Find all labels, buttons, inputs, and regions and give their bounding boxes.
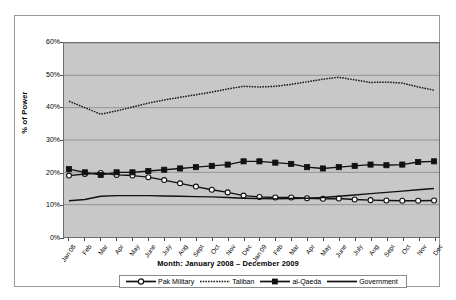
series-marker bbox=[146, 175, 151, 180]
y-tick-label: 0% bbox=[30, 234, 60, 242]
x-tick-mark bbox=[244, 238, 245, 241]
legend-swatch-none-icon bbox=[200, 277, 230, 286]
series-marker bbox=[82, 170, 87, 175]
plot-svg bbox=[64, 43, 439, 237]
legend-entry[interactable]: al-Qaeda bbox=[260, 277, 323, 286]
x-tick-mark bbox=[291, 238, 292, 241]
x-tick-mark bbox=[307, 238, 308, 241]
x-tick-mark bbox=[84, 238, 85, 241]
legend-label: Pak Military bbox=[158, 278, 196, 285]
x-tick-label: Nov bbox=[224, 243, 236, 256]
legend-label: Government bbox=[359, 278, 400, 285]
series-marker bbox=[273, 160, 278, 165]
x-tick-label: Dec bbox=[240, 243, 252, 256]
x-tick-mark bbox=[132, 238, 133, 241]
series-marker bbox=[162, 167, 167, 172]
series-line bbox=[69, 77, 434, 114]
x-tick-label: Dec bbox=[431, 243, 443, 256]
series-marker bbox=[257, 159, 262, 164]
x-tick-mark bbox=[339, 238, 340, 241]
y-tick-label: 10% bbox=[30, 201, 60, 209]
series-marker bbox=[384, 198, 389, 203]
x-tick-mark bbox=[228, 238, 229, 241]
series-line bbox=[69, 189, 434, 201]
x-axis-title: Month: January 2008 – December 2009 bbox=[15, 259, 441, 268]
x-tick-mark bbox=[100, 238, 101, 241]
x-tick-mark bbox=[259, 238, 260, 241]
x-tick-label: Apr bbox=[113, 243, 125, 255]
series-marker bbox=[241, 193, 246, 198]
x-tick-mark bbox=[403, 238, 404, 241]
x-tick-label: Feb bbox=[81, 243, 93, 256]
series-marker bbox=[66, 173, 71, 178]
series-marker bbox=[289, 195, 294, 200]
x-tick-mark bbox=[68, 238, 69, 241]
x-tick-mark bbox=[387, 238, 388, 241]
y-tick-label: 30% bbox=[30, 136, 60, 144]
x-tick-label: Oct bbox=[400, 243, 412, 255]
y-tick-label: 20% bbox=[30, 169, 60, 177]
x-tick-label: Sept bbox=[191, 243, 204, 258]
y-tick-label: 50% bbox=[30, 71, 60, 79]
legend-entry[interactable]: Government bbox=[327, 277, 400, 286]
series-marker bbox=[225, 162, 230, 167]
x-tick-label: May bbox=[128, 243, 141, 257]
series-marker bbox=[400, 198, 405, 203]
series-marker bbox=[304, 165, 309, 170]
series-marker bbox=[114, 170, 119, 175]
series-marker bbox=[416, 159, 421, 164]
x-tick-mark bbox=[355, 238, 356, 241]
x-tick-label: Mar bbox=[96, 243, 108, 256]
series-marker bbox=[209, 163, 214, 168]
y-tick-label: 60% bbox=[30, 38, 60, 46]
legend-entry[interactable]: Pak Military bbox=[126, 277, 196, 286]
series-marker bbox=[130, 170, 135, 175]
series-marker bbox=[289, 161, 294, 166]
x-tick-label: Aug bbox=[176, 243, 188, 256]
x-tick-label: July bbox=[352, 243, 364, 256]
series-marker bbox=[431, 159, 436, 164]
x-tick-label: July bbox=[160, 243, 172, 256]
series-marker bbox=[225, 190, 230, 195]
series-marker bbox=[352, 163, 357, 168]
legend-label: Taliban bbox=[232, 278, 256, 285]
series-marker bbox=[432, 198, 437, 203]
x-tick-label: May bbox=[319, 243, 332, 257]
legend-label: al-Qaeda bbox=[292, 278, 323, 285]
series-marker bbox=[400, 162, 405, 167]
x-tick-mark bbox=[275, 238, 276, 241]
series-marker bbox=[178, 181, 183, 186]
series-marker bbox=[320, 166, 325, 171]
chart-frame: % of Power 60%50%40%30%20%10%0% Jan 08Fe… bbox=[14, 15, 440, 287]
x-tick-label: June bbox=[334, 243, 348, 259]
series-marker bbox=[384, 163, 389, 168]
series-marker bbox=[193, 165, 198, 170]
x-tick-mark bbox=[196, 238, 197, 241]
series-marker bbox=[241, 159, 246, 164]
series-marker bbox=[162, 178, 167, 183]
series-marker bbox=[336, 165, 341, 170]
series-marker bbox=[98, 172, 103, 177]
x-tick-mark bbox=[212, 238, 213, 241]
y-axis-ticks: 60%50%40%30%20%10%0% bbox=[27, 42, 60, 238]
series-marker bbox=[416, 198, 421, 203]
x-tick-mark bbox=[371, 238, 372, 241]
x-axis-ticks: Jan 08FebMarAprMayJuneJulyAugSeptOctNovD… bbox=[63, 238, 440, 274]
x-tick-mark bbox=[323, 238, 324, 241]
x-tick-label: Aug bbox=[368, 243, 380, 256]
series-marker bbox=[368, 162, 373, 167]
legend-entry[interactable]: Taliban bbox=[200, 277, 256, 286]
x-tick-mark bbox=[116, 238, 117, 241]
x-tick-mark bbox=[419, 238, 420, 241]
x-tick-mark bbox=[148, 238, 149, 241]
x-tick-label: Feb bbox=[272, 243, 284, 256]
series-line bbox=[69, 173, 434, 201]
series-marker bbox=[177, 166, 182, 171]
plot-area bbox=[63, 42, 440, 238]
x-tick-label: Sept bbox=[382, 243, 395, 258]
x-tick-label: Oct bbox=[209, 243, 221, 255]
series-marker bbox=[193, 184, 198, 189]
legend-swatch-none-icon bbox=[327, 277, 357, 286]
series-marker bbox=[209, 187, 214, 192]
series-marker bbox=[66, 167, 71, 172]
